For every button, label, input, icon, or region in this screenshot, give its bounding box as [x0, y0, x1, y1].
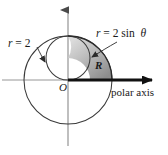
outer-circle-label: r = 2 — [8, 38, 30, 50]
figure-canvas — [0, 0, 168, 155]
polar-figure: r = 2 r = 2 sin θ R O polar axis — [0, 0, 168, 155]
inner-label-function: sin — [121, 27, 134, 39]
outer-label-value: 2 — [25, 37, 31, 49]
origin-label-O: O — [59, 82, 67, 93]
inner-circle-label: r = 2 sin θ — [96, 28, 146, 40]
leader-line-r2 — [37, 47, 45, 62]
inner-label-angle: θ — [141, 27, 147, 39]
polar-axis-label: polar axis — [111, 87, 154, 98]
region-label-R: R — [95, 60, 102, 71]
